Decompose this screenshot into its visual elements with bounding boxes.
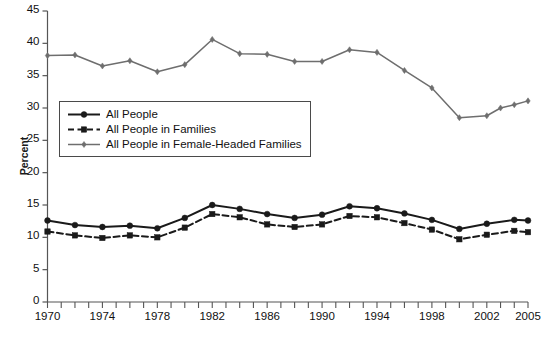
legend-item-1: All People in Families (67, 121, 302, 136)
data-point-marker (127, 223, 133, 229)
data-point-marker (182, 215, 188, 221)
data-point-marker (512, 102, 516, 108)
data-point-marker (484, 232, 489, 237)
y-axis-tick-label: 40 (10, 35, 40, 47)
chart-legend: All PeopleAll People in FamiliesAll Peop… (59, 101, 311, 157)
data-point-marker (429, 227, 434, 232)
data-point-marker (182, 225, 187, 230)
legend-label: All People in Families (106, 123, 216, 135)
x-axis-tick-label: 1974 (79, 310, 125, 322)
data-point-marker (100, 235, 105, 240)
legend-item-0: All People (67, 106, 302, 121)
data-point-marker (402, 67, 406, 73)
data-point-marker (72, 222, 78, 228)
data-point-marker (347, 213, 352, 218)
data-point-marker (319, 222, 324, 227)
y-axis-tick-label: 20 (10, 165, 40, 177)
x-axis-tick-label: 2002 (464, 310, 510, 322)
data-point-marker (45, 229, 50, 234)
data-point-marker (127, 233, 132, 238)
data-point-marker (402, 220, 407, 225)
data-point-marker (292, 58, 296, 64)
data-point-marker (264, 222, 269, 227)
data-point-marker (237, 206, 243, 212)
data-point-marker (429, 217, 435, 223)
y-axis-tick-label: 10 (10, 229, 40, 241)
y-axis-tick-label: 0 (10, 294, 40, 306)
legend-swatch-circle-icon (67, 107, 101, 120)
x-axis-tick-label: 1982 (189, 310, 235, 322)
data-point-marker (402, 211, 408, 217)
data-point-marker (292, 224, 297, 229)
data-point-marker (498, 105, 502, 111)
x-axis-tick-label: 1970 (25, 310, 71, 322)
data-point-marker (81, 112, 87, 118)
data-point-marker (100, 63, 104, 69)
data-point-marker (374, 215, 379, 220)
y-axis-tick-label: 15 (10, 197, 40, 209)
data-point-marker (375, 49, 379, 55)
x-axis-tick-label: 1994 (354, 310, 400, 322)
x-axis-tick-label: 1986 (244, 310, 290, 322)
data-point-marker (525, 218, 531, 224)
data-point-marker (100, 224, 106, 230)
data-point-marker (264, 211, 270, 217)
data-point-marker (457, 237, 462, 242)
data-point-marker (347, 47, 351, 53)
data-point-marker (265, 51, 269, 57)
x-axis-tick-label: 1978 (134, 310, 180, 322)
legend-label: All People in Female-Headed Families (106, 138, 302, 150)
data-point-marker (511, 217, 517, 223)
x-axis-tick-label: 1998 (409, 310, 455, 322)
data-point-marker (320, 58, 324, 64)
data-point-marker (73, 52, 77, 58)
data-point-marker (485, 113, 489, 119)
data-point-marker (319, 212, 325, 218)
y-axis-tick-label: 30 (10, 100, 40, 112)
legend-label: All People (106, 108, 158, 120)
data-point-marker (72, 233, 77, 238)
data-point-marker (526, 98, 530, 104)
data-point-marker (237, 215, 242, 220)
data-point-marker (210, 211, 215, 216)
y-axis-tick-label: 25 (10, 132, 40, 144)
data-point-marker (155, 69, 159, 75)
x-axis-tick-label: 2005 (505, 310, 545, 322)
data-point-marker (81, 127, 86, 132)
data-point-marker (82, 141, 86, 147)
data-point-marker (209, 202, 215, 208)
data-point-marker (347, 203, 353, 209)
data-point-marker (155, 235, 160, 240)
data-point-marker (154, 225, 160, 231)
y-axis-tick-label: 5 (10, 262, 40, 274)
data-point-marker (128, 58, 132, 64)
legend-swatch-square-icon (67, 122, 101, 135)
data-point-marker (45, 218, 51, 224)
data-point-marker (45, 53, 49, 59)
data-point-marker (456, 226, 462, 232)
x-axis-tick-label: 1990 (299, 310, 345, 322)
data-point-marker (525, 229, 530, 234)
series-line (48, 205, 529, 229)
y-axis-tick-label: 35 (10, 68, 40, 80)
data-point-marker (292, 215, 298, 221)
data-point-marker (484, 221, 490, 227)
series-all-people (45, 202, 531, 232)
data-point-marker (512, 228, 517, 233)
y-axis-tick-label: 45 (10, 3, 40, 15)
data-point-marker (237, 51, 241, 57)
legend-swatch-diamond-icon (67, 137, 101, 150)
legend-item-2: All People in Female-Headed Families (67, 136, 302, 151)
data-point-marker (374, 205, 380, 211)
